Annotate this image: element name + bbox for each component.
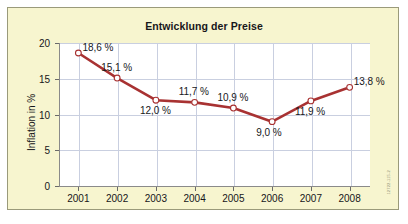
y-tick-mark [55, 150, 59, 151]
chart-panel: Entwicklung der Preise Inflation in % 12… [7, 7, 399, 210]
y-tick-label: 5 [26, 145, 50, 156]
x-tick-label: 2008 [327, 193, 373, 204]
data-point-marker [269, 119, 275, 125]
data-point-marker [347, 84, 353, 90]
x-tick-mark [156, 187, 157, 191]
x-tick-mark [233, 187, 234, 191]
y-tick-label: 15 [26, 73, 50, 84]
data-point-label: 11,9 % [295, 106, 325, 117]
y-tick-mark [55, 186, 59, 187]
data-point-label: 11,7 % [179, 86, 209, 97]
y-tick-mark [55, 79, 59, 80]
data-point-label: 9,0 % [256, 127, 282, 138]
data-point-label: 18,6 % [82, 42, 113, 53]
data-point-marker [153, 97, 159, 103]
data-point-label: 13,8 % [354, 76, 385, 87]
data-point-marker [192, 99, 198, 105]
x-tick-mark [272, 187, 273, 191]
x-tick-mark [78, 187, 79, 191]
chart-title: Entwicklung der Preise [8, 20, 400, 32]
data-point-marker [75, 50, 81, 56]
y-axis-label: Inflation in % [26, 93, 37, 150]
data-point-marker [230, 105, 236, 111]
y-tick-label: 10 [26, 109, 50, 120]
data-point-label: 10,9 % [217, 92, 248, 103]
x-tick-mark [350, 187, 351, 191]
x-tick-mark [117, 187, 118, 191]
x-tick-mark [195, 187, 196, 191]
y-tick-label: 0 [26, 181, 50, 192]
y-tick-mark [55, 115, 59, 116]
data-point-marker [308, 98, 314, 104]
y-tick-mark [55, 43, 59, 44]
data-point-marker [114, 75, 120, 81]
y-tick-label: 20 [26, 38, 50, 49]
x-tick-mark [311, 187, 312, 191]
data-point-label: 12,0 % [140, 105, 171, 116]
chart-figure: Entwicklung der Preise Inflation in % 12… [0, 0, 408, 224]
data-point-label: 15,1 % [101, 62, 132, 73]
source-code-label: 12722-115-2 [387, 170, 391, 195]
